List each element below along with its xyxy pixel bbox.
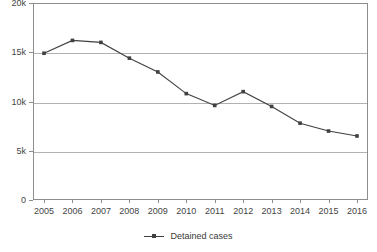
x-tick-label: 2014: [290, 206, 310, 216]
x-tick-label: 2010: [176, 206, 196, 216]
x-tick-mark: [72, 199, 73, 203]
x-tick-mark: [272, 199, 273, 203]
x-tick-mark: [158, 199, 159, 203]
x-tick-label: 2006: [62, 206, 82, 216]
x-tick-mark: [300, 199, 301, 203]
line-chart: 05k10k15k20k 200520062007200820092010201…: [0, 0, 377, 252]
x-axis: 2005200620072008200920102011201220132014…: [0, 203, 377, 219]
data-point-marker: [71, 39, 75, 43]
data-point-marker: [327, 129, 331, 133]
x-tick-label: 2013: [262, 206, 282, 216]
x-tick-label: 2016: [347, 206, 367, 216]
legend-label: Detained cases: [170, 231, 232, 241]
x-tick-mark: [329, 199, 330, 203]
legend-marker-icon: [144, 232, 164, 241]
x-tick-label: 2012: [233, 206, 253, 216]
series-line: [44, 40, 357, 136]
x-tick-label: 2015: [319, 206, 339, 216]
data-point-marker: [99, 41, 103, 45]
x-tick-mark: [243, 199, 244, 203]
x-tick-mark: [129, 199, 130, 203]
x-tick-label: 2011: [205, 206, 224, 216]
data-point-marker: [156, 70, 160, 74]
x-tick-label: 2005: [34, 206, 54, 216]
x-tick-mark: [215, 199, 216, 203]
data-point-marker: [298, 121, 302, 125]
data-point-marker: [355, 134, 359, 138]
x-tick-mark: [44, 199, 45, 203]
x-tick-label: 2009: [148, 206, 168, 216]
x-tick-mark: [357, 199, 358, 203]
chart-legend: Detained cases: [0, 228, 377, 244]
x-tick-mark: [186, 199, 187, 203]
data-point-marker: [42, 51, 46, 55]
data-point-marker: [128, 56, 132, 60]
data-point-marker: [270, 105, 274, 109]
data-point-marker: [213, 104, 217, 108]
data-point-marker: [184, 92, 188, 96]
data-point-marker: [241, 90, 245, 94]
x-tick-label: 2007: [91, 206, 111, 216]
x-tick-label: 2008: [119, 206, 139, 216]
x-tick-mark: [101, 199, 102, 203]
